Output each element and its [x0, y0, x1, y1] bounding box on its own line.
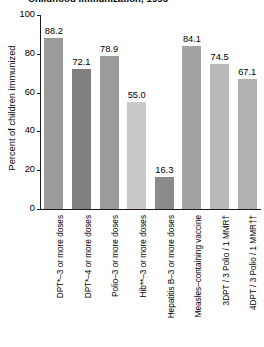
y-tick-mark: [37, 54, 40, 55]
bar: 67.1: [238, 79, 257, 209]
y-tick-label: 80: [25, 49, 35, 58]
bar-value-label: 67.1: [238, 68, 256, 77]
bar-value-label: 84.1: [183, 35, 201, 44]
x-category-label: Measles–containing vaccine: [195, 215, 203, 317]
bar: 88.2: [44, 38, 63, 209]
bar-value-label: 88.2: [45, 27, 63, 36]
x-category-label: 4DPT / 3 Polio / 1 MMR††: [250, 215, 258, 310]
bar-value-label: 16.3: [155, 166, 173, 175]
x-category-label: Hepatitis B–3 or more doses: [168, 215, 176, 318]
y-axis-label: Percent of children immunized: [7, 33, 17, 183]
y-tick-mark: [37, 93, 40, 94]
x-axis-line: [40, 209, 261, 210]
y-tick-label: 0: [30, 204, 35, 213]
y-axis-line: [40, 15, 41, 209]
chart-title: Childhood immunization, 1996: [28, 0, 168, 4]
y-tick-label: 60: [25, 88, 35, 97]
bar: 16.3: [155, 177, 174, 209]
y-tick-label: 100: [19, 10, 35, 19]
y-tick-label: 20: [25, 166, 35, 175]
bar-value-label: 74.5: [211, 53, 229, 62]
bar: 74.5: [210, 64, 229, 209]
bar-value-label: 78.9: [100, 45, 118, 54]
bar: 55.0: [127, 102, 146, 209]
x-category-label: Polio–3 or more doses: [112, 215, 120, 297]
x-category-label: 3DPT / 3 Polio / 1 MMR†: [223, 215, 231, 305]
x-category-label: Hib**–3 or more doses: [140, 215, 148, 297]
bar: 84.1: [182, 46, 201, 209]
y-tick-mark: [37, 209, 40, 210]
bar-value-label: 55.0: [128, 91, 146, 100]
y-tick-label: 40: [25, 127, 35, 136]
x-category-label: DPT*–4 or more doses: [85, 215, 93, 298]
bar: 78.9: [100, 56, 119, 209]
bar: 72.1: [72, 69, 91, 209]
x-category-label: DPT*–3 or more doses: [57, 215, 65, 298]
immunization-bar-chart: Childhood immunization, 1996 Percent of …: [0, 0, 264, 347]
plot-area: 020406080100 88.272.178.955.016.384.174.…: [40, 15, 261, 209]
y-tick-mark: [37, 131, 40, 132]
y-tick-mark: [37, 15, 40, 16]
bar-value-label: 72.1: [72, 58, 90, 67]
y-tick-mark: [37, 170, 40, 171]
